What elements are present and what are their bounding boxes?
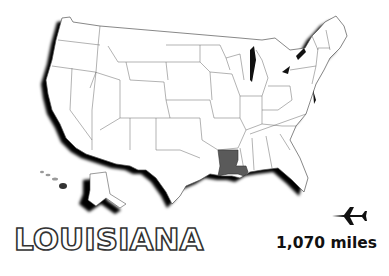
hawaii: [40, 171, 67, 189]
state-title: LOUISIANA: [14, 224, 204, 255]
airplane-icon: [330, 203, 368, 229]
distance-label: 1,070 miles: [276, 236, 377, 252]
chesapeake-bay: [313, 90, 316, 104]
